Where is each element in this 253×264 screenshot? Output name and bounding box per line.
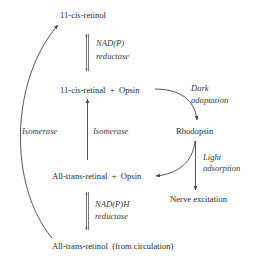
visual-cycle-diagram: 11-cis-retinol 11-cis-retinal + Opsin Rh… [0,0,253,264]
label-adsorption: adsorption [203,163,240,173]
node-11-cis-retinol: 11-cis-retinol [60,10,107,20]
node-all-trans-retinol: All-trans-retinol (from circulation) [52,241,174,251]
label-nadph-reductase: reductase [95,211,128,221]
nadp-reductase-double-arrow [87,34,89,71]
label-nadp: NAD(P) [95,38,124,48]
label-nadph: NAD(P)H [94,199,130,209]
label-nadp-reductase: reductase [96,51,129,61]
light-adsorption-curve-arrow [156,141,195,176]
nadph-reductase-double-arrow [87,192,89,230]
label-isomerase-left: Isomerase [21,126,58,136]
label-isomerase-middle: Isomerase [92,126,129,136]
node-11-cis-retinal-opsin: 11-cis-retinal + Opsin [60,85,140,95]
node-all-trans-retinal-opsin: All-trans-retinal + Opsin [52,171,142,181]
label-dark: Dark [190,83,209,93]
node-nerve-excitation: Nerve excitation [170,194,228,204]
label-adaptation: adaptation [191,95,228,105]
node-rhodopsin: Rhodopsin [176,126,214,136]
label-light: Light [202,152,222,162]
diagram-canvas: 11-cis-retinol 11-cis-retinal + Opsin Rh… [0,0,253,264]
